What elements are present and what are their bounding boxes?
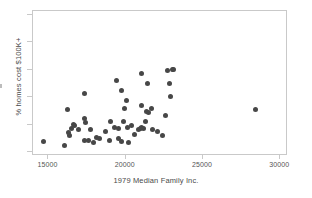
data-point <box>146 110 151 115</box>
data-point <box>253 107 258 112</box>
data-point <box>62 143 67 148</box>
x-tick <box>279 155 280 159</box>
data-point <box>83 120 88 125</box>
data-point <box>171 67 176 72</box>
data-point <box>119 139 124 144</box>
data-point <box>129 123 134 128</box>
y-tick <box>27 124 32 125</box>
data-point <box>91 140 96 145</box>
data-point <box>160 133 165 138</box>
data-point <box>139 71 144 76</box>
scatter-plot-screenshot: 15000200002500030000 1979 Median Family … <box>0 0 312 198</box>
data-point <box>163 113 168 118</box>
y-tick <box>27 69 32 70</box>
data-point <box>107 138 112 143</box>
x-tick <box>47 155 48 159</box>
data-point <box>116 126 121 131</box>
data-point <box>143 119 148 124</box>
data-point <box>88 127 93 132</box>
y-axis-title: % homes cost $100K+ <box>14 17 23 137</box>
y-tick <box>27 151 32 152</box>
data-point <box>145 81 150 86</box>
data-point <box>67 133 72 138</box>
data-point <box>82 91 87 96</box>
x-tick <box>125 155 126 159</box>
data-point <box>65 107 70 112</box>
data-point <box>139 103 144 108</box>
data-point <box>141 126 146 131</box>
plot-area <box>32 10 287 155</box>
x-tick-label: 20000 <box>115 161 135 168</box>
x-tick <box>202 155 203 159</box>
data-point <box>121 119 126 124</box>
data-point <box>114 78 119 83</box>
y-tick <box>27 41 32 42</box>
data-point <box>126 140 131 145</box>
data-point <box>167 81 172 86</box>
data-point <box>108 119 113 124</box>
data-point <box>124 98 129 103</box>
data-point <box>168 94 173 99</box>
data-point <box>132 132 137 137</box>
data-point <box>41 139 46 144</box>
x-tick-label: 15000 <box>37 161 57 168</box>
data-points-layer <box>33 11 286 154</box>
y-tick <box>27 96 32 97</box>
clipped-edge-mark <box>0 84 2 88</box>
x-axis-title: 1979 Median Family Inc. <box>0 176 312 185</box>
data-point <box>122 106 127 111</box>
data-point <box>149 106 154 111</box>
x-tick-label: 30000 <box>269 161 289 168</box>
y-tick <box>27 14 32 15</box>
data-point <box>76 127 81 132</box>
data-point <box>103 129 108 134</box>
data-point <box>97 136 102 141</box>
data-point <box>155 129 160 134</box>
x-tick-label: 25000 <box>192 161 212 168</box>
data-point <box>119 88 124 93</box>
